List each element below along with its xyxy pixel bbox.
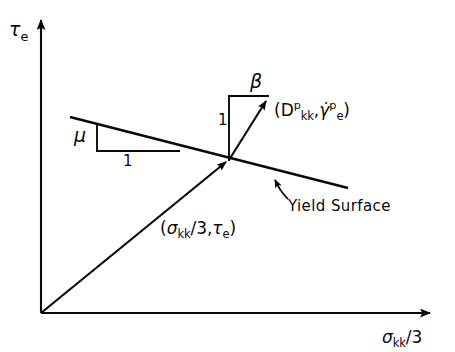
stress-first-subscript: kk (177, 227, 190, 241)
dilatancy-rise-label: 1 (218, 113, 228, 128)
friction-coefficient-label: μ (74, 126, 86, 145)
x-axis-label: σkk/3 (382, 329, 422, 350)
dilatancy-angle-label: β (250, 72, 262, 91)
stress-first-suffix: /3 (190, 218, 207, 238)
yield-surface-group (70, 117, 348, 188)
stress-second-symbol: τ (212, 218, 222, 238)
flow-first-symbol: D (281, 100, 294, 120)
flow-second-symbol: γ̇ (319, 100, 329, 120)
yield-surface-line (70, 117, 348, 188)
stress-second-subscript: e (223, 227, 230, 241)
y-axis-subscript: e (20, 29, 28, 44)
x-axis-suffix: /3 (406, 327, 423, 347)
diagram-canvas (0, 0, 455, 352)
flow-first-subscript: kk (301, 109, 314, 123)
yield-surface-diagram: τe σkk/3 μ 1 β 1 (Dpkk,γ̇pe) (σkk/3,τe) … (0, 0, 455, 352)
plastic-flow-vector-label: (Dpkk,γ̇pe) (274, 100, 350, 123)
plastic-flow-vector (229, 101, 266, 160)
friction-run-label: 1 (123, 154, 133, 169)
yield-surface-annotation-label: Yield Surface (288, 199, 391, 214)
flow-first-superscript: p (294, 99, 301, 112)
stress-point-label: (σkk/3,τe) (160, 220, 236, 241)
y-axis-symbol: τ (9, 18, 20, 40)
dilatancy-slope-triangle (228, 96, 269, 161)
stress-open-paren: ( (160, 218, 167, 238)
stress-close-paren: ) (230, 218, 237, 238)
stress-first-symbol: σ (167, 218, 178, 238)
flow-open-paren: ( (274, 100, 281, 120)
yield-leader-curve (275, 180, 288, 199)
flow-close-paren: ) (343, 100, 350, 120)
x-axis-subscript: kk (393, 336, 406, 350)
x-axis-symbol: σ (382, 327, 393, 347)
y-axis-label: τe (9, 20, 28, 44)
axis-group (41, 20, 430, 313)
yield-surface-leader (275, 180, 288, 199)
